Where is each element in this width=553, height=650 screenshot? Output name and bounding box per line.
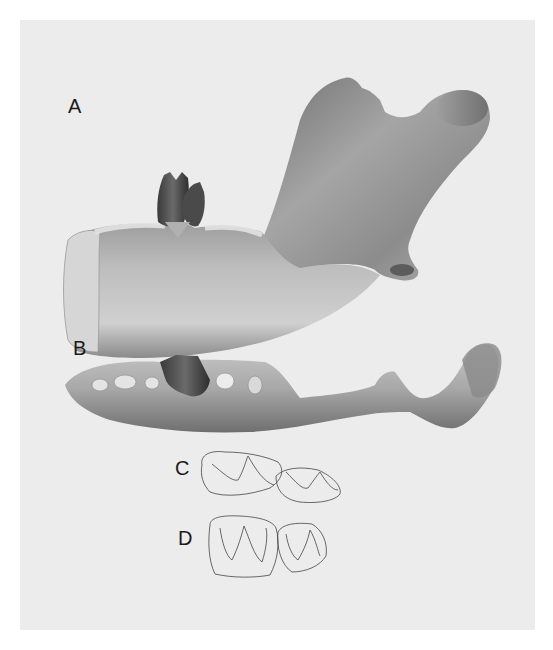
alveolus bbox=[92, 379, 108, 391]
panel-d-molar-outline bbox=[209, 516, 327, 577]
alveolus bbox=[216, 373, 234, 389]
panel-label-c: C bbox=[175, 458, 189, 478]
panel-a-mandible-lateral bbox=[64, 78, 491, 358]
molar-1-cusps bbox=[220, 526, 267, 562]
molar-1-cusps bbox=[212, 456, 274, 485]
alveolus bbox=[114, 375, 136, 389]
broken-anterior-end bbox=[64, 230, 101, 352]
alveolus bbox=[248, 376, 262, 394]
molar-2-cusps bbox=[286, 530, 320, 560]
molar-2-outline bbox=[276, 468, 340, 503]
angular-process bbox=[390, 264, 414, 276]
molar-2-outline bbox=[278, 523, 327, 572]
alveolus bbox=[145, 377, 159, 389]
mandible-illustration bbox=[0, 0, 553, 650]
panel-c-molar-outline bbox=[201, 452, 340, 503]
condyle bbox=[436, 90, 488, 126]
panel-label-b: B bbox=[73, 338, 86, 358]
panel-label-d: D bbox=[178, 528, 192, 548]
molar-2-cusps bbox=[286, 472, 338, 490]
molar-1-outline bbox=[209, 516, 278, 577]
panel-label-a: A bbox=[68, 96, 81, 116]
